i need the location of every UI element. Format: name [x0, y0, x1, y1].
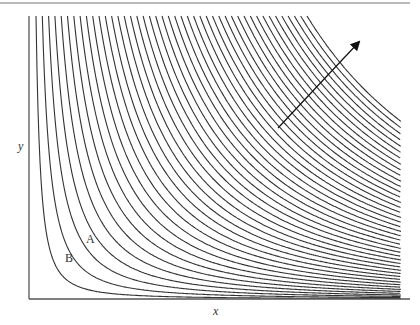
indifference-curve: [93, 16, 401, 282]
indifference-curve: [42, 16, 400, 298]
indifference-curve: [162, 16, 400, 244]
indifference-curve: [112, 16, 401, 274]
indifference-curve: [219, 16, 401, 203]
curve-label-a: A: [86, 233, 95, 245]
indifference-curve: [263, 16, 401, 164]
indifference-curve: [124, 16, 400, 267]
indifference-curve: [301, 16, 401, 128]
indifference-curve: [61, 16, 400, 293]
curve-label-b: B: [65, 252, 73, 264]
x-axis-label: x: [213, 305, 218, 317]
indifference-curves: [36, 16, 401, 299]
indifference-curve: [257, 16, 401, 170]
indifference-curve: [307, 16, 401, 121]
indifference-curve: [294, 16, 400, 134]
indifference-curve: [244, 16, 401, 181]
indifference-curve: [250, 16, 400, 175]
indifference-curve: [131, 16, 401, 264]
indifference-curve-diagram: [0, 0, 420, 325]
y-axis-label: y: [18, 140, 23, 152]
